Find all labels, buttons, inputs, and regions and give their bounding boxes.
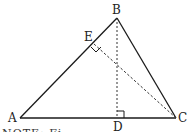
label-e: E — [84, 31, 93, 43]
label-a: A — [8, 112, 17, 124]
label-d: D — [113, 121, 123, 132]
label-c: C — [178, 112, 187, 124]
right-angle-mark-d — [117, 111, 124, 118]
segment-bc — [117, 18, 176, 118]
triangle-diagram — [0, 0, 191, 132]
altitude-ce — [94, 44, 176, 118]
right-angle-mark-e — [91, 47, 101, 52]
note-text: NOTE: Fi — [2, 127, 62, 132]
segment-ab — [20, 18, 117, 118]
label-b: B — [112, 4, 121, 16]
